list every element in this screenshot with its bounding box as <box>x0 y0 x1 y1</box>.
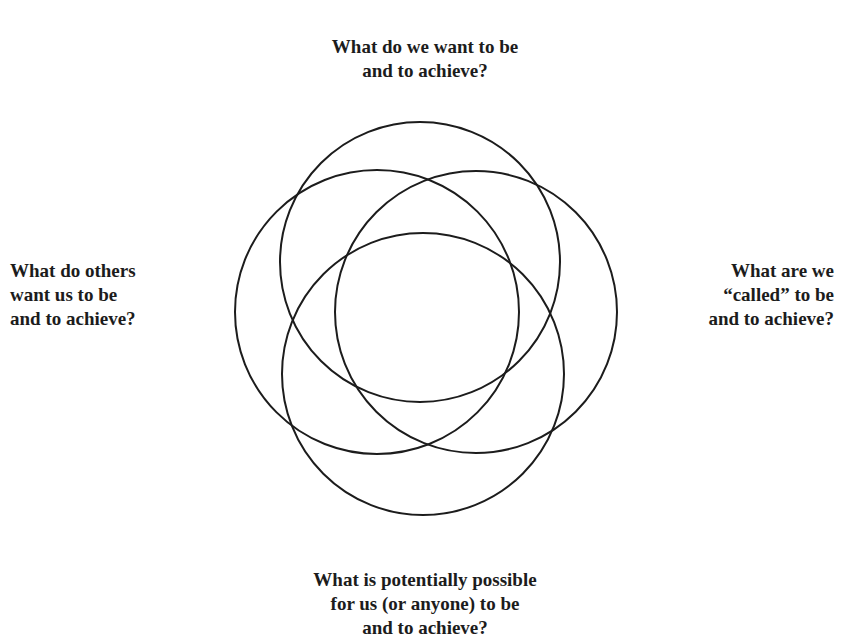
circle-right <box>335 171 617 453</box>
circle-top <box>280 122 560 402</box>
circle-bottom <box>282 233 564 515</box>
